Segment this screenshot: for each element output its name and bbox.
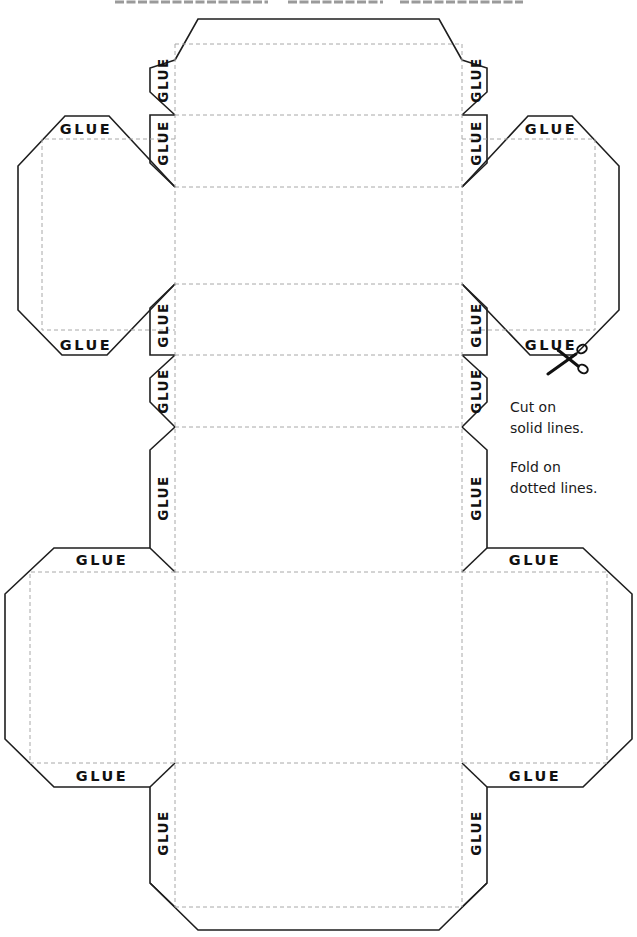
glue-label-spine-right-3: GLUE: [468, 302, 484, 347]
glue-label-left-wing-bottom: GLUE: [76, 768, 128, 784]
glue-label-left-wing-top: GLUE: [76, 552, 128, 568]
glue-label-spine-right-1: GLUE: [468, 57, 484, 102]
scissors-icon: [546, 340, 590, 376]
glue-label-spine-right-5: GLUE: [468, 475, 484, 520]
glue-label-spine-left-3: GLUE: [155, 302, 171, 347]
cut-instruction: Cut on solid lines.: [510, 397, 597, 439]
glue-label-spine-right-6: GLUE: [468, 810, 484, 855]
glue-label-spine-left-4: GLUE: [155, 368, 171, 413]
cut-instruction-line1: Cut on: [510, 399, 556, 415]
glue-label-left-lid-top: GLUE: [60, 121, 112, 137]
glue-label-right-lid-top: GLUE: [525, 121, 577, 137]
glue-label-right-wing-bottom: GLUE: [509, 768, 561, 784]
glue-label-right-wing-top: GLUE: [509, 552, 561, 568]
glue-label-spine-left-6: GLUE: [155, 810, 171, 855]
glue-label-spine-left-2: GLUE: [155, 120, 171, 165]
glue-label-spine-left-1: GLUE: [155, 57, 171, 102]
fold-instruction: Fold on dotted lines.: [510, 457, 597, 499]
glue-label-spine-right-2: GLUE: [468, 120, 484, 165]
glue-label-left-lid-bottom: GLUE: [60, 337, 112, 353]
instructions: Cut on solid lines. Fold on dotted lines…: [510, 397, 597, 517]
fold-instruction-line2: dotted lines.: [510, 480, 597, 496]
glue-label-spine-right-4: GLUE: [468, 368, 484, 413]
fold-instruction-line1: Fold on: [510, 459, 561, 475]
glue-label-spine-left-5: GLUE: [155, 475, 171, 520]
cut-instruction-line2: solid lines.: [510, 420, 584, 436]
